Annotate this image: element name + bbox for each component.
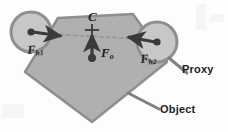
label-center-of-mass: C — [88, 10, 97, 23]
label-force-object-subscript: o — [110, 52, 114, 61]
label-force-hand1: Fh1 — [27, 43, 44, 58]
label-force-object-symbol: F — [101, 45, 110, 60]
label-proxy: Proxy — [182, 64, 214, 75]
object-leader-line — [128, 93, 159, 109]
label-force-hand1-subscript: h1 — [35, 48, 43, 58]
label-force-object: Fo — [101, 46, 114, 61]
label-object: Object — [160, 104, 195, 115]
figure-canvas: C Fo Fh1 Fh2 Proxy Object — [0, 0, 228, 132]
label-force-hand2-subscript: h2 — [148, 57, 156, 67]
label-force-hand2: Fh2 — [140, 52, 157, 67]
